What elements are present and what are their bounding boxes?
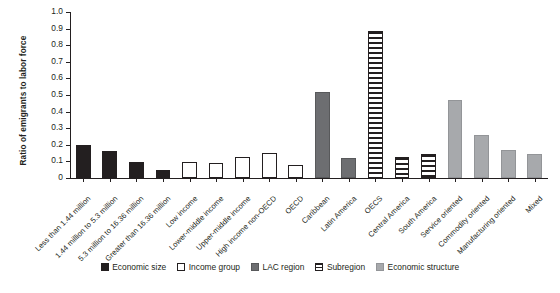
- y-axis-tick: 0: [66, 178, 70, 179]
- x-axis-tick: [508, 178, 509, 182]
- legend-swatch-icon: [376, 263, 384, 271]
- bar-income-group[interactable]: [209, 163, 224, 178]
- y-axis-tick: 0.1: [66, 161, 70, 162]
- x-axis-label: OECS: [363, 194, 385, 216]
- bar-income-group[interactable]: [182, 162, 197, 178]
- legend-item-economic-structure[interactable]: Economic structure: [376, 262, 459, 272]
- bar-chart-figure: Ratio of emigrants to labor force 00.10.…: [0, 0, 560, 293]
- x-axis-tick: [455, 178, 456, 182]
- x-axis-tick: [216, 178, 217, 182]
- legend-item-lac-region[interactable]: LAC region: [251, 262, 304, 272]
- x-axis-tick: [535, 178, 536, 182]
- x-axis-tick: [136, 178, 137, 182]
- y-axis-tick-label: 0: [58, 172, 63, 182]
- x-axis-tick: [375, 178, 376, 182]
- y-axis-tick: 0.6: [66, 78, 70, 79]
- legend-swatch-icon: [251, 263, 259, 271]
- bar-lac-region[interactable]: [341, 158, 356, 178]
- x-axis-tick: [110, 178, 111, 182]
- y-axis-tick-label: 0.7: [51, 56, 63, 66]
- y-axis-title: Ratio of emigrants to labor force: [19, 16, 28, 186]
- y-axis-tick-label: 0.5: [51, 89, 63, 99]
- legend-item-label: Subregion: [327, 262, 365, 272]
- bar-economic-size[interactable]: [76, 145, 91, 178]
- y-axis-tick-label: 1.0: [51, 6, 63, 16]
- y-axis-tick: 0.9: [66, 29, 70, 30]
- bar-economic-structure[interactable]: [501, 150, 516, 178]
- bar-lac-region[interactable]: [315, 92, 330, 178]
- bar-subregion[interactable]: [395, 157, 410, 178]
- y-axis-tick-label: 0.1: [51, 155, 63, 165]
- legend-swatch-icon: [177, 263, 185, 271]
- y-axis-tick: 0.8: [66, 45, 70, 46]
- y-axis-tick: 0.7: [66, 62, 70, 63]
- x-axis-tick: [402, 178, 403, 182]
- y-axis-tick: 1.0: [66, 12, 70, 13]
- bar-economic-structure[interactable]: [474, 135, 489, 178]
- bar-economic-structure[interactable]: [527, 154, 542, 178]
- x-axis-tick: [163, 178, 164, 182]
- x-axis-tick: [296, 178, 297, 182]
- y-axis-tick-label: 0.9: [51, 23, 63, 33]
- legend-item-economic-size[interactable]: Economic size: [101, 262, 167, 272]
- x-axis-tick: [482, 178, 483, 182]
- legend-item-label: Economic size: [112, 262, 166, 272]
- x-axis-tick: [349, 178, 350, 182]
- legend-swatch-icon: [315, 263, 323, 271]
- x-axis-tick: [243, 178, 244, 182]
- x-axis-label: OECD: [283, 194, 305, 216]
- y-axis-tick-label: 0.6: [51, 72, 63, 82]
- legend-item-label: Economic structure: [388, 262, 460, 272]
- x-axis-tick: [190, 178, 191, 182]
- x-axis-label: Mixed: [523, 194, 544, 215]
- y-axis-tick-label: 0.4: [51, 106, 63, 116]
- bar-subregion[interactable]: [368, 31, 383, 178]
- y-axis-tick: 0.2: [66, 145, 70, 146]
- bar-economic-size[interactable]: [102, 151, 117, 178]
- bar-subregion[interactable]: [421, 154, 436, 178]
- legend-item-label: Income group: [189, 262, 240, 272]
- bar-economic-structure[interactable]: [448, 100, 463, 178]
- y-axis-tick-label: 0.3: [51, 122, 63, 132]
- legend-item-subregion[interactable]: Subregion: [315, 262, 365, 272]
- legend-item-label: LAC region: [262, 262, 304, 272]
- y-axis-tick: 0.3: [66, 128, 70, 129]
- bar-income-group[interactable]: [262, 153, 277, 178]
- x-axis-line: [70, 178, 548, 179]
- x-axis-tick: [322, 178, 323, 182]
- y-axis-tick-label: 0.8: [51, 39, 63, 49]
- plot-area: 00.10.20.30.40.50.60.70.80.91.0 Less tha…: [70, 12, 548, 178]
- bar-economic-size[interactable]: [156, 170, 171, 178]
- x-axis-tick: [269, 178, 270, 182]
- x-axis-tick: [429, 178, 430, 182]
- legend-item-income-group[interactable]: Income group: [177, 262, 240, 272]
- y-axis-line: [70, 12, 71, 178]
- y-axis-tick: 0.4: [66, 112, 70, 113]
- x-axis-tick: [83, 178, 84, 182]
- legend-swatch-icon: [101, 263, 109, 271]
- y-axis-tick-label: 0.2: [51, 139, 63, 149]
- bar-income-group[interactable]: [235, 157, 250, 178]
- bar-income-group[interactable]: [288, 165, 303, 178]
- chart-legend: Economic sizeIncome groupLAC regionSubre…: [0, 262, 560, 272]
- bar-economic-size[interactable]: [129, 162, 144, 178]
- y-axis-tick: 0.5: [66, 95, 70, 96]
